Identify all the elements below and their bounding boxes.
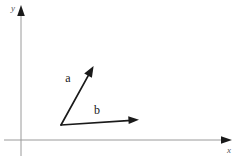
y-axis-label: y (10, 3, 15, 13)
vector-b-label: b (94, 103, 100, 117)
x-axis-label: x (226, 145, 231, 155)
vector-b-line (61, 120, 132, 125)
vector-a-arrowhead (84, 66, 93, 78)
diagram-canvas: y x a b (0, 0, 242, 162)
y-axis-arrowhead (17, 5, 25, 16)
vector-a-label: a (65, 71, 71, 85)
vector-b-arrowhead (128, 116, 139, 124)
vector-diagram-figure: y x a b (0, 0, 242, 162)
x-axis-arrowhead (221, 136, 232, 144)
